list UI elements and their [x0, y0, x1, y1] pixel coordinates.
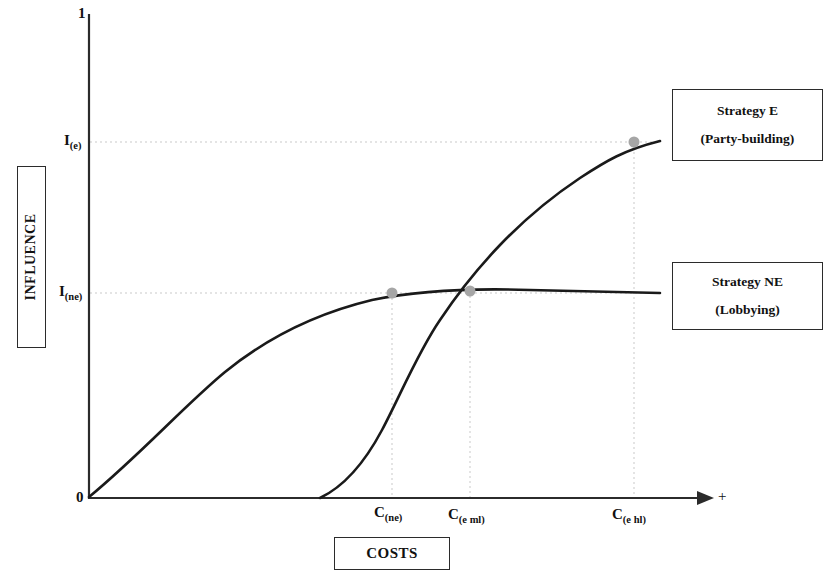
x-axis-title-text: COSTS	[366, 545, 418, 562]
x-axis-plus-sign-text: +	[718, 488, 726, 504]
curve-strategy-ne	[89, 289, 660, 497]
legend-strategy-e-subtitle: (Party-building)	[701, 131, 795, 147]
x-axis-tick-ceml-base: C	[448, 506, 459, 522]
y-axis-tick-ie-sub: (e)	[70, 140, 82, 151]
y-axis-top-label: 1	[78, 6, 86, 21]
marker-ne-saturation-point	[387, 288, 398, 299]
x-axis-tick-cehl: C(e hl)	[612, 507, 646, 526]
x-axis-tick-cne-sub: (ne)	[385, 512, 403, 523]
x-axis-title-box: COSTS	[334, 537, 450, 570]
y-axis-tick-ine-sub: (ne)	[65, 291, 83, 302]
marker-crossing-point	[465, 286, 476, 297]
x-axis-tick-cne: C(ne)	[374, 505, 402, 524]
y-axis-origin-label: 0	[76, 490, 84, 505]
y-axis-tick-ie: I(e)	[64, 133, 82, 152]
chart-figure: 1 I(e) I(ne) 0 C(ne) C(e ml) C(e hl) + I…	[0, 0, 833, 585]
x-axis-tick-cne-base: C	[374, 504, 385, 520]
marker-e-saturation-point	[629, 137, 640, 148]
legend-item-strategy-ne: Strategy NE (Lobbying)	[672, 262, 823, 330]
x-axis-tick-cehl-sub: (e hl)	[623, 514, 646, 525]
y-axis-origin-label-text: 0	[76, 489, 84, 505]
y-axis-title-text: INFLUENCE	[24, 214, 40, 301]
chart-axes	[88, 15, 714, 505]
x-axis-tick-cehl-base: C	[612, 506, 623, 522]
curve-strategy-e	[320, 141, 660, 498]
legend-strategy-ne-subtitle: (Lobbying)	[715, 302, 780, 318]
x-axis-tick-ceml: C(e ml)	[448, 507, 485, 526]
data-point-markers	[387, 137, 640, 299]
legend-strategy-ne-title: Strategy NE	[712, 274, 783, 290]
x-axis-plus-sign: +	[718, 489, 726, 504]
legend-strategy-e-title: Strategy E	[717, 103, 778, 119]
y-axis-tick-ine: I(ne)	[59, 284, 82, 303]
y-axis-title-box: INFLUENCE	[17, 166, 46, 348]
x-axis-arrowhead	[697, 491, 714, 505]
legend-item-strategy-e: Strategy E (Party-building)	[672, 89, 823, 161]
x-axis-tick-ceml-sub: (e ml)	[459, 514, 485, 525]
y-axis-top-label-text: 1	[78, 5, 86, 21]
